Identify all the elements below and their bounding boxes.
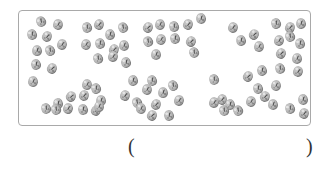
- open-paren: (: [128, 134, 135, 158]
- seed-icon: [271, 79, 282, 91]
- seed-icon: [268, 98, 278, 109]
- seed-icon: [158, 86, 168, 97]
- seed-icon: [119, 39, 129, 50]
- close-paren: ): [306, 134, 313, 158]
- seed-icon: [136, 102, 147, 114]
- seed-icon: [28, 75, 39, 87]
- seed-icon: [32, 44, 42, 55]
- seed-icon: [292, 52, 302, 63]
- seed-icon: [151, 49, 161, 60]
- answer-blank[interactable]: [140, 134, 302, 158]
- seed-icon: [94, 100, 104, 111]
- answer-bracket: ( ): [0, 134, 326, 158]
- seed-icon: [155, 18, 166, 30]
